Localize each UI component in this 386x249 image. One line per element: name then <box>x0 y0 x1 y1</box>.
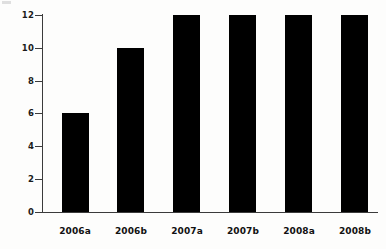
y-axis-label-0: 0 <box>10 208 34 217</box>
y-axis-tick-0 <box>35 212 43 213</box>
y-axis-label-2: 2 <box>10 175 34 184</box>
y-axis-tick-12 <box>35 15 43 16</box>
x-axis-line <box>42 212 378 213</box>
chart-plot-area: 0 2 4 6 8 10 12 2006a 2006b 2007a 2007b … <box>0 0 386 249</box>
bar-2006b <box>117 48 144 212</box>
x-axis-label-2006b: 2006b <box>101 227 161 236</box>
bar-2007a <box>173 15 200 212</box>
x-axis-label-2007a: 2007a <box>157 227 217 236</box>
bar-chart-screenshot: 0 2 4 6 8 10 12 2006a 2006b 2007a 2007b … <box>0 0 386 249</box>
y-axis-label-8: 8 <box>10 77 34 86</box>
y-axis-label-12: 12 <box>10 11 34 20</box>
x-axis-label-2008a: 2008a <box>269 227 329 236</box>
y-axis-tick-10 <box>35 48 43 49</box>
y-axis-label-10: 10 <box>10 44 34 53</box>
y-axis-label-6: 6 <box>10 109 34 118</box>
y-axis-label-4: 4 <box>10 142 34 151</box>
bar-2008b <box>341 15 368 212</box>
bar-2007b <box>229 15 256 212</box>
y-axis-tick-6 <box>35 113 43 114</box>
x-axis-label-2007b: 2007b <box>213 227 273 236</box>
bar-2008a <box>285 15 312 212</box>
y-axis-tick-4 <box>35 146 43 147</box>
bar-2006a <box>62 113 89 212</box>
y-axis-tick-8 <box>35 81 43 82</box>
x-axis-label-2008b: 2008b <box>325 227 385 236</box>
x-axis-label-2006a: 2006a <box>45 227 105 236</box>
y-axis-tick-2 <box>35 179 43 180</box>
